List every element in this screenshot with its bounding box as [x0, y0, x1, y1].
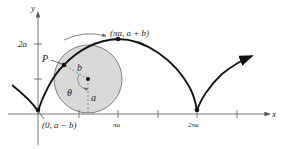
start-leader-line	[38, 111, 44, 119]
label-theta: θ	[67, 87, 72, 98]
circle-center	[86, 77, 90, 81]
label-a: a	[91, 92, 96, 103]
label-start: (0, a − b)	[42, 120, 77, 130]
y-axis-label: y	[30, 3, 35, 13]
rolling-direction-arrow	[64, 34, 106, 40]
point-P	[62, 63, 67, 68]
y-tick-label-2a: 2a	[18, 39, 28, 49]
cycloid-curve	[12, 39, 252, 111]
x-tick-label-2pi-a: 2πa	[188, 121, 199, 129]
label-b: b	[77, 62, 82, 73]
x-axis-label: x	[271, 109, 276, 119]
label-top: (πa, a + b)	[110, 28, 149, 38]
x-tick-label-pi-a: πa	[113, 121, 121, 129]
label-P: P	[41, 53, 48, 64]
point-start	[36, 108, 41, 113]
prolate-cycloid-diagram: y x 2a πa 2πa P (πa, a + b) (0, a − b) b…	[0, 0, 282, 149]
point-2pi-a	[195, 108, 200, 113]
